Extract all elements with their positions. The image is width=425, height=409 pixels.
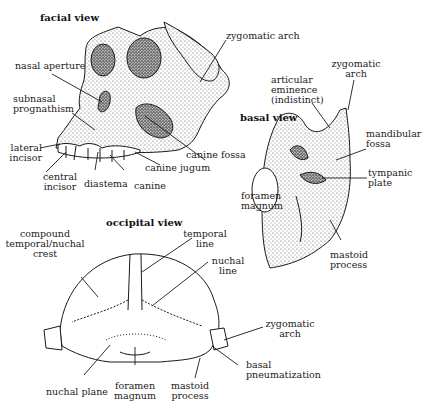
label-canine-jugum: canine jugum: [145, 163, 210, 173]
label-line: arch: [262, 329, 318, 339]
occipital-view-title: occipital view: [106, 217, 182, 228]
label-line: crest: [2, 249, 88, 259]
label-zygomatic-arch-occipital: zygomatic arch: [262, 319, 318, 339]
label-line: incisor: [40, 182, 80, 192]
label-temporal-line: temporal line: [182, 229, 228, 249]
label-foramen-magnum-basal: foramen magnum: [241, 191, 283, 211]
label-basal-pneumatization: basal pneumatization: [246, 360, 321, 380]
label-line: fossa: [366, 139, 421, 149]
label-foramen-magnum-occipital: foramen magnum: [113, 381, 157, 401]
label-canine-fossa: canine fossa: [186, 150, 246, 160]
label-line: process: [170, 391, 210, 401]
facial-view-skull: [56, 22, 229, 162]
label-diastema: diastema: [84, 179, 128, 189]
hominin-skull-diagram: facial view zygomatic arch nasal apertur…: [0, 0, 425, 409]
basal-view-skull: [252, 108, 350, 268]
label-canine: canine: [134, 181, 166, 191]
label-zygomatic-arch-facial: zygomatic arch: [226, 31, 300, 41]
label-line: magnum: [113, 391, 157, 401]
label-line: magnum: [241, 201, 283, 211]
label-mastoid-process-occipital: mastoid process: [170, 381, 210, 401]
label-tympanic-plate: tympanic plate: [368, 168, 412, 188]
basal-view-title: basal view: [240, 112, 297, 123]
label-compound-temporal-nuchal-crest: compound temporal/nuchal crest: [2, 229, 88, 259]
label-line: line: [182, 239, 228, 249]
label-line: incisor: [4, 153, 42, 163]
label-nasal-aperture: nasal aperture: [15, 61, 85, 71]
label-line: arch: [328, 69, 384, 79]
label-zygomatic-arch-basal: zygomatic arch: [328, 59, 384, 79]
facial-view-title: facial view: [40, 12, 99, 23]
label-line: (indistinct): [271, 95, 324, 105]
label-line: prognathism: [13, 104, 74, 114]
label-nuchal-line: nuchal line: [208, 256, 248, 276]
label-central-incisor: central incisor: [40, 172, 80, 192]
label-subnasal-prognathism: subnasal prognathism: [13, 94, 74, 114]
label-line: plate: [368, 178, 412, 188]
label-line: process: [330, 260, 368, 270]
occipital-view-skull: [44, 254, 228, 362]
label-mandibular-fossa: mandibular fossa: [366, 129, 421, 149]
label-line: pneumatization: [246, 370, 321, 380]
label-lateral-incisor: lateral incisor: [4, 143, 42, 163]
label-mastoid-process-basal: mastoid process: [330, 250, 368, 270]
label-nuchal-plane: nuchal plane: [46, 387, 108, 397]
label-articular-eminence: articular eminence (indistinct): [271, 75, 324, 105]
label-line: line: [208, 266, 248, 276]
